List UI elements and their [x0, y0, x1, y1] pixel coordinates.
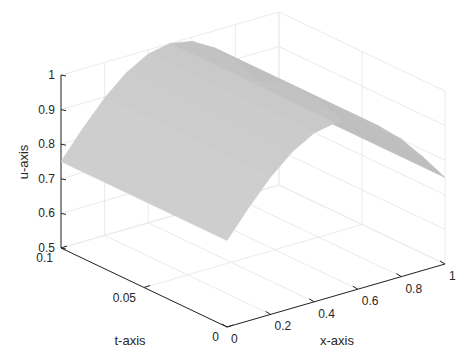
x-tick-label: 0.2 — [275, 319, 292, 333]
surface — [61, 41, 445, 240]
x-tick-label: 0.8 — [405, 282, 422, 296]
u-axis-label: u-axis — [16, 144, 31, 179]
surface-plot: 0.50.60.70.80.9100.050.100.20.40.60.81 u… — [0, 0, 476, 364]
x-tick-label: 0.6 — [362, 294, 379, 308]
u-tick-label: 1 — [48, 68, 55, 82]
x-axis-label: x-axis — [320, 333, 354, 348]
u-tick-label: 0.6 — [38, 206, 55, 220]
u-tick-label: 0.9 — [38, 103, 55, 117]
u-tick-label: 0.8 — [38, 137, 55, 151]
t-tick-label: 0.05 — [113, 291, 137, 305]
u-tick-label: 0.7 — [38, 172, 55, 186]
x-tick-label: 1 — [449, 269, 456, 283]
t-tick-label: 0.1 — [36, 251, 53, 265]
t-axis-label: t-axis — [114, 333, 146, 348]
x-tick-label: 0.4 — [318, 307, 335, 321]
t-tick-label: 0 — [212, 330, 219, 344]
x-tick-label: 0 — [231, 332, 238, 346]
